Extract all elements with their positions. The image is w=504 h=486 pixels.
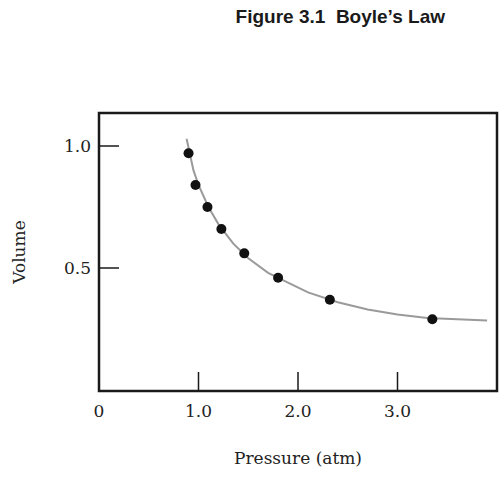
boyles-law-chart: 1.00.5 01.02.03.0 Pressure (atm) Volume bbox=[0, 0, 504, 486]
data-point bbox=[191, 180, 201, 190]
x-axis-label: Pressure (atm) bbox=[234, 448, 362, 468]
data-point bbox=[202, 202, 212, 212]
data-point bbox=[239, 248, 249, 258]
data-point bbox=[325, 295, 335, 305]
x-axis-ticks: 01.02.03.0 bbox=[94, 372, 411, 421]
plot-frame bbox=[99, 113, 497, 391]
data-point bbox=[273, 273, 283, 283]
data-point bbox=[184, 148, 194, 158]
y-tick-label: 0.5 bbox=[64, 258, 91, 278]
y-axis-ticks: 1.00.5 bbox=[64, 136, 119, 278]
data-point bbox=[427, 314, 437, 324]
x-tick-label: 3.0 bbox=[384, 401, 411, 421]
x-tick-label: 0 bbox=[94, 401, 105, 421]
y-axis-label: Volume bbox=[9, 220, 29, 285]
y-tick-label: 1.0 bbox=[64, 136, 91, 156]
fitted-curve bbox=[187, 139, 488, 321]
data-point bbox=[216, 224, 226, 234]
x-tick-label: 2.0 bbox=[284, 401, 311, 421]
data-points bbox=[184, 148, 438, 324]
x-tick-label: 1.0 bbox=[185, 401, 212, 421]
